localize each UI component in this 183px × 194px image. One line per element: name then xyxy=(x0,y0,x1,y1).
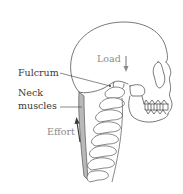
fulcrum-leader xyxy=(60,73,111,87)
load-label: Load xyxy=(97,53,121,64)
load-arrow-icon xyxy=(124,56,129,72)
cervical-spine-illustration xyxy=(87,87,125,182)
neck-muscles-label-line1: Neck xyxy=(18,87,43,98)
neck-muscles-label-line2: muscles xyxy=(18,100,57,111)
lever-diagram: Load Fulcrum Neck muscles Effort xyxy=(0,0,183,194)
neck-muscles-illustration xyxy=(79,92,88,180)
fulcrum-label: Fulcrum xyxy=(18,67,59,78)
effort-label: Effort xyxy=(47,126,75,137)
